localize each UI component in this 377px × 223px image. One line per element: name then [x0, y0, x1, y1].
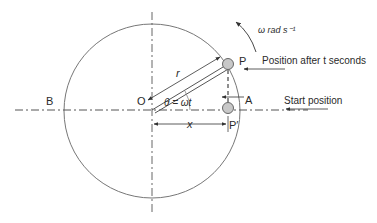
angle-label: θ = ωt [164, 97, 193, 108]
angular-velocity-arrow [236, 22, 256, 52]
shm-diagram: ω rad s⁻¹ P Position after t seconds r O… [0, 0, 377, 223]
label-p-prime: P′ [229, 119, 238, 131]
point-p [223, 59, 234, 70]
label-p: P [239, 55, 246, 67]
start-position-label: Start position [284, 95, 342, 106]
position-after-label: Position after t seconds [262, 55, 366, 66]
label-o: O [137, 95, 146, 107]
label-x: x [186, 118, 193, 130]
label-b: B [46, 95, 53, 107]
angular-velocity-label: ω rad s⁻¹ [258, 25, 296, 35]
radius-dimension-arrow [148, 57, 220, 100]
point-p-prime [223, 103, 234, 114]
label-a: A [245, 94, 253, 106]
label-r: r [176, 67, 181, 79]
